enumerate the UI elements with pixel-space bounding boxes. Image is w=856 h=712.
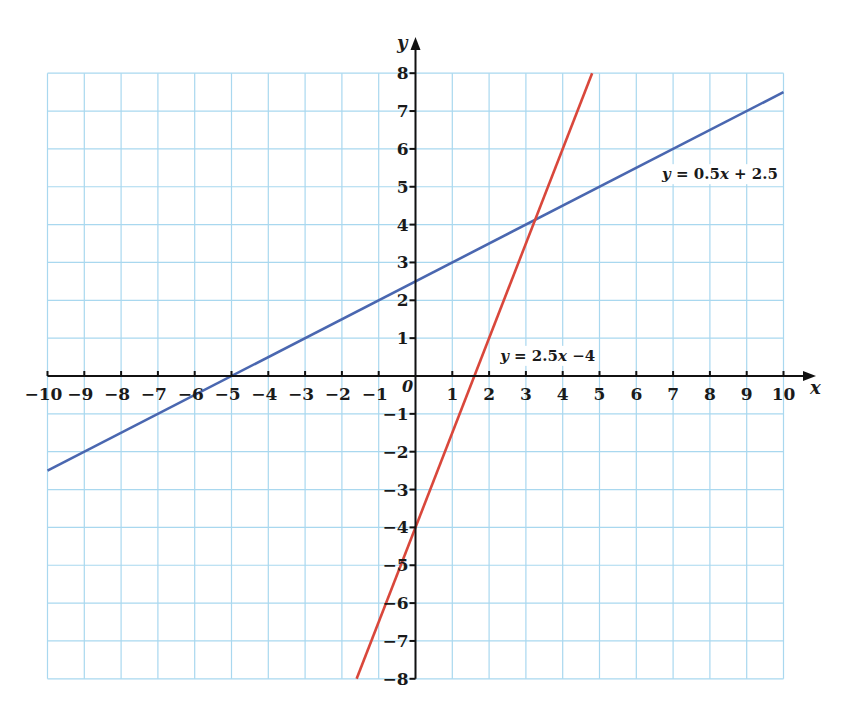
coordinate-plane: −10−9−8−7−6−5−4−3−2−112345678910−8−7−6−5… — [0, 0, 856, 712]
x-tick-label: −5 — [214, 384, 240, 404]
y-tick-label: 8 — [397, 63, 409, 83]
x-tick-label: −9 — [67, 384, 93, 404]
y-axis-label: y — [396, 32, 409, 53]
x-tick-label: 10 — [772, 384, 796, 404]
y-tick-label: 7 — [397, 101, 409, 121]
y-tick-label: −1 — [382, 404, 408, 424]
y-tick-label: −4 — [382, 517, 408, 537]
x-tick-label: 3 — [520, 384, 532, 404]
series-label-1: y = 0.5x + 2.5 — [658, 164, 781, 184]
x-tick-label: −8 — [104, 384, 130, 404]
y-tick-label: 6 — [397, 139, 409, 159]
x-tick-label: 9 — [741, 384, 753, 404]
x-axis-label: x — [809, 377, 821, 398]
y-tick-label: 3 — [397, 252, 409, 272]
x-tick-label: −10 — [25, 384, 63, 404]
x-tick-label: 1 — [446, 384, 458, 404]
y-axis-arrow-icon — [411, 37, 421, 50]
y-tick-label: 4 — [397, 215, 409, 235]
x-tick-label: 4 — [557, 384, 569, 404]
x-tick-label: −4 — [251, 384, 277, 404]
x-tick-label: 7 — [667, 384, 679, 404]
series-labels: y = 0.5x + 2.5y = 2.5x −4 — [496, 164, 781, 366]
y-tick-label: 5 — [397, 177, 409, 197]
y-tick-label: −5 — [382, 555, 408, 575]
x-tick-label: −6 — [178, 384, 204, 404]
x-tick-label: −7 — [141, 384, 167, 404]
x-tick-label: −1 — [362, 384, 388, 404]
x-tick-label: 5 — [594, 384, 606, 404]
y-tick-label: 1 — [397, 328, 409, 348]
y-tick-label: −7 — [382, 631, 408, 651]
x-tick-label: 2 — [483, 384, 495, 404]
y-tick-label: −8 — [382, 669, 408, 689]
series-label-2: y = 2.5x −4 — [496, 346, 598, 366]
y-tick-label: −6 — [382, 593, 408, 613]
x-tick-label: 8 — [704, 384, 716, 404]
y-tick-label: 2 — [397, 290, 409, 310]
x-tick-label: −3 — [288, 384, 314, 404]
y-tick-label: −2 — [382, 442, 408, 462]
equation-text: y = 0.5x + 2.5 — [661, 165, 778, 183]
x-tick-label: −2 — [325, 384, 351, 404]
x-tick-label: 6 — [630, 384, 642, 404]
equation-text: y = 2.5x −4 — [499, 347, 595, 365]
origin-label: 0 — [402, 377, 413, 396]
y-tick-label: −3 — [382, 480, 408, 500]
